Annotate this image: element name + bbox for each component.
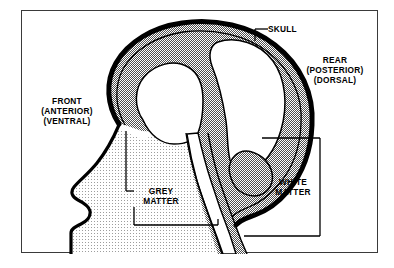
white-matter-label: WHITE MATTER	[265, 177, 321, 197]
figure-stage: SKULL REAR (POSTERIOR) (DORSAL) FRONT (A…	[0, 0, 394, 268]
rear-label-line-2: (POSTERIOR)	[298, 65, 372, 75]
front-label-line-2: (ANTERIOR)	[30, 106, 104, 116]
skull-label: SKULL	[268, 24, 297, 34]
front-label-line-1: FRONT	[30, 96, 104, 106]
white-matter-label-line-1: WHITE	[265, 177, 321, 187]
white-matter-label-line-2: MATTER	[265, 187, 321, 197]
rear-label-line-1: REAR	[298, 55, 372, 65]
skull-label-line-1: SKULL	[268, 24, 297, 34]
grey-matter-label-line-2: MATTER	[133, 196, 189, 206]
grey-matter-label: GREY MATTER	[133, 186, 189, 206]
grey-matter-label-line-1: GREY	[133, 186, 189, 196]
rear-orientation-label: REAR (POSTERIOR) (DORSAL)	[298, 55, 372, 86]
figure-frame: SKULL REAR (POSTERIOR) (DORSAL) FRONT (A…	[21, 10, 378, 253]
rear-label-line-3: (DORSAL)	[298, 75, 372, 85]
front-label-line-3: (VENTRAL)	[30, 116, 104, 126]
head-cross-section-diagram	[22, 11, 379, 254]
front-orientation-label: FRONT (ANTERIOR) (VENTRAL)	[30, 96, 104, 127]
